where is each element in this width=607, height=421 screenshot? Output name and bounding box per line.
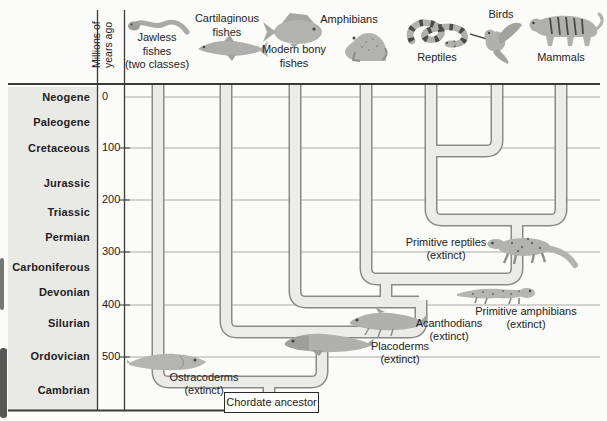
tiger-icon <box>526 9 604 54</box>
group-label-jawless-fishes: Jawless fishes (two classes) <box>125 31 189 72</box>
tick-0: 0 <box>102 90 124 102</box>
frog-icon <box>342 24 392 66</box>
group-label-mammals: Mammals <box>537 51 585 65</box>
group-label-birds: Birds <box>488 8 513 22</box>
branch-label-primitive-reptiles: Primitive reptiles (extinct) <box>406 236 487 262</box>
period-permian: Permian <box>0 231 90 243</box>
group-label-amphibians: Amphibians <box>320 13 377 27</box>
axis-title: Millions of years ago <box>91 21 114 68</box>
root-label-box: Chordate ancestor <box>224 392 319 413</box>
group-label-cartilaginous-fishes: Cartilaginous fishes <box>195 12 259 39</box>
group-label-modern-bony-fishes: Modern bony fishes <box>262 43 326 70</box>
period-ordovician: Ordovician <box>0 350 90 362</box>
period-triassic: Triassic <box>0 206 90 218</box>
period-cambrian: Cambrian <box>0 384 90 396</box>
period-silurian: Silurian <box>0 317 90 329</box>
axis-title-line1: Millions of <box>91 21 103 68</box>
phylogenetic-tree-figure: Millions of years ago 0 100 200 300 400 … <box>0 0 607 421</box>
scan-artifact <box>0 348 7 418</box>
tick-200: 200 <box>102 193 124 205</box>
period-carboniferous: Carboniferous <box>0 261 90 273</box>
period-neogene: Neogene <box>0 91 90 103</box>
branch-label-acanthodians: Acanthodians (extinct) <box>416 317 483 343</box>
tick-300: 300 <box>102 245 124 257</box>
group-label-reptiles: Reptiles <box>417 51 457 65</box>
tick-500: 500 <box>102 350 124 362</box>
hummingbird-icon <box>468 17 524 65</box>
axis-title-line2: years ago <box>103 21 115 68</box>
tick-400: 400 <box>102 298 124 310</box>
snake-icon <box>402 13 468 53</box>
tick-100: 100 <box>102 141 124 153</box>
primitive-amphibian-icon <box>453 282 537 305</box>
scan-artifact <box>0 258 4 310</box>
period-paleogene: Paleogene <box>0 116 90 128</box>
primitive-reptile-icon <box>486 231 578 269</box>
branch-label-placoderms: Placoderms (extinct) <box>371 340 429 366</box>
period-devonian: Devonian <box>0 286 90 298</box>
branch-label-primitive-amphibians: Primitive amphibians (extinct) <box>475 305 576 331</box>
period-cretaceous: Cretaceous <box>0 142 90 154</box>
period-jurassic: Jurassic <box>0 177 90 189</box>
